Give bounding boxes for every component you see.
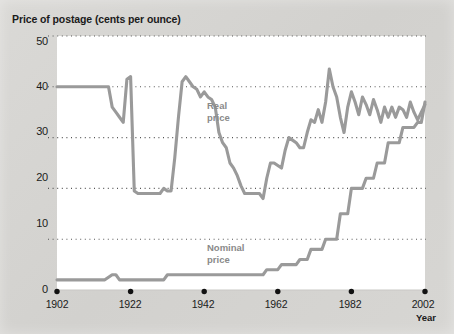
series-label-nominal-line1: Nominal	[207, 242, 244, 253]
x-tick-label-1962: 1962	[253, 298, 299, 310]
x-tick-dot-1962	[275, 289, 280, 294]
x-tick-dot-1942	[202, 289, 207, 294]
series-label-nominal-line2: price	[207, 254, 230, 265]
postage-price-line-chart	[0, 0, 454, 334]
series-label-real-price: Real price	[207, 100, 230, 123]
y-tick-label-20: 20	[22, 171, 48, 183]
x-tick-dot-1982	[349, 289, 354, 294]
x-tick-dot-1922	[128, 289, 133, 294]
y-tick-label-0: 0	[22, 283, 48, 295]
y-tick-label-40: 40	[22, 80, 48, 92]
x-tick-label-1922: 1922	[107, 298, 153, 310]
chart-figure: Price of postage (cents per ounce) 50 40…	[0, 0, 454, 334]
series-label-real-line2: price	[207, 112, 230, 123]
x-tick-label-1942: 1942	[180, 298, 226, 310]
x-tick-label-1902: 1902	[34, 298, 80, 310]
y-tick-label-30: 30	[22, 125, 48, 137]
y-tick-label-50: 50	[22, 35, 48, 47]
x-tick-dot-2002	[422, 289, 427, 294]
y-tick-label-10: 10	[22, 217, 48, 229]
x-axis-title: Year	[416, 312, 436, 323]
series-label-real-line1: Real	[207, 100, 227, 111]
x-tick-label-1982: 1982	[327, 298, 373, 310]
x-tick-label-2002: 2002	[400, 298, 446, 310]
series-label-nominal-price: Nominal price	[207, 242, 244, 265]
x-tick-dot-1902	[54, 289, 59, 294]
